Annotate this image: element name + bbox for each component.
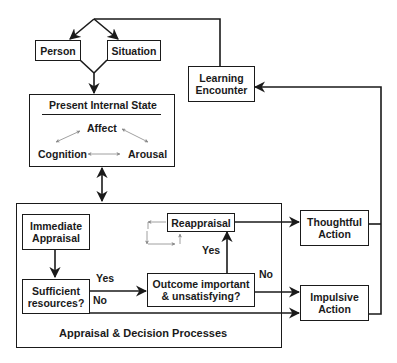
impulsive-action-node: Impulsive Action xyxy=(300,285,369,321)
arousal-label: Arousal xyxy=(128,148,167,160)
learning-encounter-label: Learning Encounter xyxy=(192,72,251,96)
impulsive-action-label: Impulsive Action xyxy=(301,291,368,315)
cognition-label: Cognition xyxy=(38,148,87,160)
situation-node: Situation xyxy=(107,40,161,61)
immediate-appraisal-label: Immediate Appraisal xyxy=(23,220,89,244)
situation-label: Situation xyxy=(112,45,157,57)
outcome-yes-label: Yes xyxy=(202,244,220,256)
person-node: Person xyxy=(35,40,81,61)
sufficient-yes-label: Yes xyxy=(96,272,114,284)
appraisal-decision-title: Appraisal & Decision Processes xyxy=(59,327,227,339)
outcome-no-label: No xyxy=(259,268,273,280)
immediate-appraisal-node: Immediate Appraisal xyxy=(22,214,90,250)
learning-encounter-node: Learning Encounter xyxy=(188,66,255,102)
thoughtful-action-label: Thoughtful Action xyxy=(301,216,368,240)
outcome-question-label: Outcome important & unsatisfying? xyxy=(152,278,250,302)
thoughtful-action-node: Thoughtful Action xyxy=(300,210,369,246)
reappraisal-node: Reappraisal xyxy=(167,213,235,232)
title-underline xyxy=(42,114,161,115)
present-internal-state-title: Present Internal State xyxy=(49,99,157,111)
reappraisal-label: Reappraisal xyxy=(171,217,231,229)
sufficient-resources-label: Sufficient resources? xyxy=(23,285,89,309)
sufficient-no-label: No xyxy=(93,294,107,306)
outcome-question-node: Outcome important & unsatisfying? xyxy=(147,273,255,307)
person-label: Person xyxy=(40,45,76,57)
affect-label: Affect xyxy=(87,122,117,134)
sufficient-resources-node: Sufficient resources? xyxy=(22,279,90,314)
